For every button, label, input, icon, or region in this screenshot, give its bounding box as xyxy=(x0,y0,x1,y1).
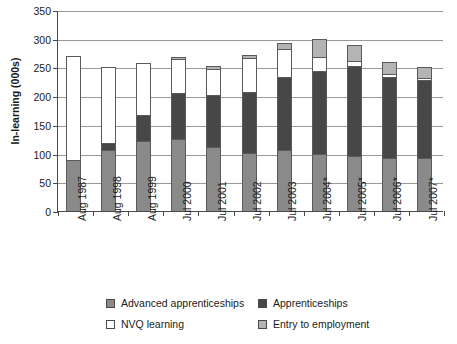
y-axis-tick xyxy=(53,126,58,127)
y-axis-tick-label: 200 xyxy=(17,92,51,103)
legend-swatch-icon xyxy=(258,299,267,308)
bar-segment[interactable] xyxy=(66,56,81,161)
x-axis-tick xyxy=(304,211,305,216)
x-axis-tick xyxy=(198,211,199,216)
bar-segment[interactable] xyxy=(382,62,397,74)
legend-label: Apprenticeships xyxy=(273,298,348,309)
bar-segment[interactable] xyxy=(312,57,327,71)
x-axis-tick xyxy=(163,211,164,216)
legend-label: NVQ learning xyxy=(121,319,184,330)
y-axis-tick-label: 150 xyxy=(17,121,51,132)
x-axis-tick xyxy=(444,211,445,216)
x-axis-tick-label: Aug 1998 xyxy=(112,176,123,221)
x-axis-tick-label: Jul 2006* xyxy=(392,177,403,221)
x-axis-tick-label: Aug 1987 xyxy=(77,176,88,221)
gridline xyxy=(58,40,443,41)
bar-segment[interactable] xyxy=(101,67,116,143)
legend-item[interactable]: Apprenticeships xyxy=(258,298,396,309)
x-axis-tick xyxy=(374,211,375,216)
bar-segment[interactable] xyxy=(136,63,151,114)
legend-swatch-icon xyxy=(106,320,115,329)
legend-label: Entry to employment xyxy=(273,319,369,330)
bar-segment[interactable] xyxy=(206,69,221,95)
x-axis-tick-label: Jul 2007* xyxy=(428,177,439,221)
legend-label: Advanced apprenticeships xyxy=(121,298,244,309)
y-axis-tick-label: 50 xyxy=(17,178,51,189)
bar-segment[interactable] xyxy=(277,77,292,151)
x-axis-tick-label: Jul 2003 xyxy=(287,181,298,221)
y-axis-tick-label: 300 xyxy=(17,34,51,45)
y-axis-tick xyxy=(53,11,58,12)
bar-segment[interactable] xyxy=(417,80,432,158)
x-axis-tick-label: Jul 2001 xyxy=(217,181,228,221)
legend-item[interactable]: Advanced apprenticeships xyxy=(106,298,258,309)
legend-item[interactable]: Entry to employment xyxy=(258,319,396,330)
x-axis-tick xyxy=(339,211,340,216)
chart-legend: Advanced apprenticeshipsApprenticeshipsN… xyxy=(106,293,396,335)
y-axis-tick-label: 250 xyxy=(17,63,51,74)
y-axis-tick xyxy=(53,40,58,41)
x-axis-tick-label: Aug 1999 xyxy=(147,176,158,221)
bar-segment[interactable] xyxy=(206,95,221,147)
bar-segment[interactable] xyxy=(312,71,327,154)
y-axis-tick-label: 0 xyxy=(17,207,51,218)
y-axis-tick-label: 350 xyxy=(17,6,51,17)
bar-segment[interactable] xyxy=(101,143,116,150)
x-axis-tick xyxy=(58,211,59,216)
bar-segment[interactable] xyxy=(242,58,257,91)
y-axis-tick xyxy=(53,97,58,98)
legend-swatch-icon xyxy=(258,320,267,329)
x-axis-tick xyxy=(269,211,270,216)
x-axis-tick-label: Jul 2004* xyxy=(322,177,333,221)
y-axis-tick xyxy=(53,155,58,156)
y-axis-tick-label: 100 xyxy=(17,149,51,160)
bar-segment[interactable] xyxy=(242,92,257,153)
bar-segment[interactable] xyxy=(312,39,327,57)
x-axis-tick xyxy=(128,211,129,216)
legend-swatch-icon xyxy=(106,299,115,308)
x-axis-tick xyxy=(409,211,410,216)
x-axis-tick xyxy=(234,211,235,216)
y-axis-tick xyxy=(53,183,58,184)
bar-segment[interactable] xyxy=(171,59,186,93)
x-axis-tick xyxy=(93,211,94,216)
y-axis-tick xyxy=(53,68,58,69)
bar-segment[interactable] xyxy=(347,45,362,61)
bar-segment[interactable] xyxy=(417,67,432,78)
bar-segment[interactable] xyxy=(171,93,186,138)
gridline xyxy=(58,11,443,12)
bar-segment[interactable] xyxy=(136,115,151,141)
legend-item[interactable]: NVQ learning xyxy=(106,319,258,330)
bar-chart: In-learning (000s) 050100150200250300350… xyxy=(0,0,457,344)
x-axis-tick-label: Jul 2002 xyxy=(252,181,263,221)
bar-segment[interactable] xyxy=(277,49,292,77)
bar-segment[interactable] xyxy=(347,66,362,156)
bar-segment[interactable] xyxy=(382,77,397,159)
x-axis-tick-label: Jul 2005* xyxy=(357,177,368,221)
x-axis-tick-label: Jul 2000 xyxy=(182,181,193,221)
